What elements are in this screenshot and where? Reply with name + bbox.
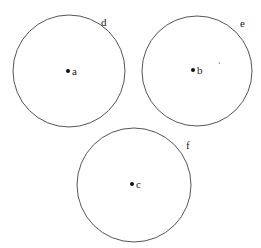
circle-label-e: e [240,17,245,29]
circle-label-f: f [186,139,190,151]
center-label-b: b [197,64,203,76]
circle-e-group: b e [142,16,252,126]
center-dot-c [130,182,134,186]
tick-mark [219,62,220,64]
center-label-c: c [136,178,141,190]
circle-f-group: c f [77,128,191,242]
circle-f [77,128,191,242]
center-dot-b [191,68,195,72]
center-label-a: a [72,65,77,77]
center-dot-a [66,69,70,73]
circle-label-d: d [101,16,107,28]
circle-d-group: a d [13,15,125,127]
circles-diagram: a d b e c f [0,0,261,248]
